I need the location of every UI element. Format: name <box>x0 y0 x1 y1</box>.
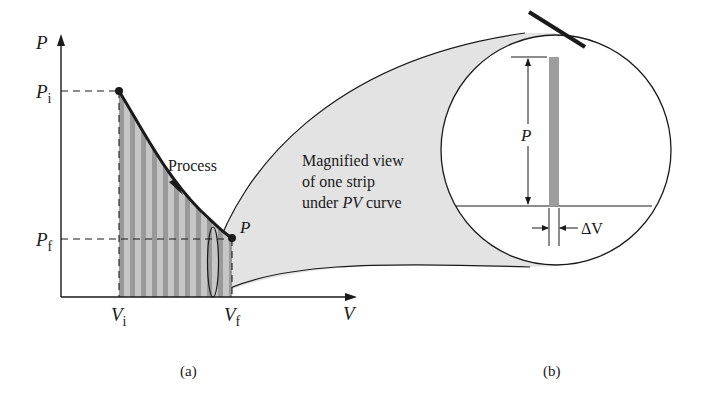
end-point-label: P <box>239 218 250 237</box>
strip-width-label: ΔV <box>581 220 603 237</box>
caption-a: (a) <box>180 363 197 380</box>
strip-height-label: P <box>520 126 531 145</box>
pv-diagram: P Pi Pf Vi Vf V Process P (a) Magnified … <box>0 0 705 398</box>
process-label: Process <box>168 157 217 174</box>
final-point <box>228 234 236 242</box>
caption-b: (b) <box>543 363 561 380</box>
description-line-2: of one strip <box>302 173 375 191</box>
y-axis-label: P <box>35 32 48 53</box>
arrow-up-icon <box>57 34 65 46</box>
y-axis <box>57 34 65 297</box>
x-axis-label: V <box>343 303 357 324</box>
initial-point <box>115 87 123 95</box>
v-initial-label: Vi <box>111 304 127 329</box>
arrow-right-icon <box>345 293 357 301</box>
description-line-1: Magnified view <box>302 152 404 170</box>
v-final-label: Vf <box>224 304 241 329</box>
description-line-3: under PV curve <box>302 194 402 211</box>
p-final-label: Pf <box>35 229 53 254</box>
magnified-strip <box>549 57 559 206</box>
p-initial-label: Pi <box>35 81 52 106</box>
